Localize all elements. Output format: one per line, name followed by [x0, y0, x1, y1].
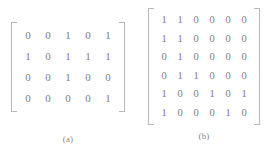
matrix-cell: 0: [38, 67, 58, 88]
matrix-panel-a: 00101101110010000001 (a): [0, 0, 136, 144]
matrix-row: 00100: [18, 67, 118, 88]
matrix-cell: 0: [18, 88, 38, 109]
matrix-cell: 1: [18, 46, 38, 67]
matrix-cell: 0: [236, 30, 252, 49]
matrix-cell: 1: [188, 67, 204, 86]
matrix-cell: 1: [58, 67, 78, 88]
matrix-b-grid: 110000110000010000011000100101100010: [154, 8, 254, 125]
matrix-cell: 0: [204, 104, 220, 123]
matrix-cell: 0: [78, 88, 98, 109]
matrix-cell: 1: [172, 30, 188, 49]
matrix-row: 100010: [156, 104, 252, 123]
matrix-cell: 0: [220, 85, 236, 104]
matrix-cell: 0: [78, 25, 98, 46]
matrix-cell: 0: [78, 67, 98, 88]
matrix-a: 00101101110010000001: [11, 22, 125, 112]
matrix-b-right-bracket: [254, 8, 260, 125]
matrix-cell: 1: [204, 85, 220, 104]
matrix-cell: 0: [204, 30, 220, 49]
matrix-cell: 0: [58, 88, 78, 109]
matrix-cell: 0: [38, 25, 58, 46]
matrix-cell: 1: [172, 48, 188, 67]
matrix-cell: 0: [236, 11, 252, 30]
matrix-cell: 1: [58, 46, 78, 67]
matrix-row: 110000: [156, 30, 252, 49]
matrix-cell: 1: [156, 30, 172, 49]
matrix-a-grid: 00101101110010000001: [17, 22, 119, 112]
matrix-cell: 1: [220, 104, 236, 123]
matrix-cell: 0: [220, 48, 236, 67]
caption-a: (a): [63, 134, 74, 144]
matrix-cell: 0: [172, 85, 188, 104]
matrix-row: 110000: [156, 11, 252, 30]
caption-b: (b): [198, 131, 209, 141]
matrix-row: 100101: [156, 85, 252, 104]
matrix-cell: 0: [204, 11, 220, 30]
matrix-cell: 0: [220, 11, 236, 30]
matrix-cell: 0: [18, 25, 38, 46]
matrix-cell: 1: [78, 46, 98, 67]
matrix-cell: 0: [220, 30, 236, 49]
matrix-cell: 0: [188, 104, 204, 123]
matrix-cell: 0: [188, 48, 204, 67]
matrix-panel-b: 110000110000010000011000100101100010 (b): [136, 0, 272, 141]
matrix-cell: 0: [188, 30, 204, 49]
matrix-cell: 0: [38, 46, 58, 67]
matrix-cell: 1: [236, 85, 252, 104]
matrix-cell: 1: [156, 85, 172, 104]
matrix-cell: 0: [236, 67, 252, 86]
matrix-cell: 1: [58, 25, 78, 46]
matrix-b: 110000110000010000011000100101100010: [148, 8, 260, 125]
matrix-cell: 0: [98, 67, 118, 88]
matrix-cell: 1: [172, 67, 188, 86]
matrix-cell: 0: [204, 67, 220, 86]
matrix-cell: 0: [188, 85, 204, 104]
matrix-cell: 0: [172, 104, 188, 123]
matrix-row: 10111: [18, 46, 118, 67]
matrix-cell: 1: [98, 88, 118, 109]
matrix-cell: 1: [98, 25, 118, 46]
matrix-cell: 0: [38, 88, 58, 109]
matrix-row: 011000: [156, 67, 252, 86]
matrix-cell: 0: [236, 48, 252, 67]
matrix-cell: 1: [156, 104, 172, 123]
matrix-cell: 0: [204, 48, 220, 67]
matrix-cell: 1: [98, 46, 118, 67]
matrix-cell: 0: [220, 67, 236, 86]
matrix-row: 00101: [18, 25, 118, 46]
matrix-cell: 0: [188, 11, 204, 30]
matrix-cell: 0: [156, 67, 172, 86]
matrix-cell: 1: [156, 11, 172, 30]
matrix-cell: 0: [236, 104, 252, 123]
matrix-row: 00001: [18, 88, 118, 109]
figure-container: 00101101110010000001 (a) 110000110000010…: [0, 0, 272, 150]
matrix-a-right-bracket: [119, 22, 125, 112]
matrix-cell: 1: [172, 11, 188, 30]
matrix-cell: 0: [18, 67, 38, 88]
matrix-cell: 0: [156, 48, 172, 67]
matrix-row: 010000: [156, 48, 252, 67]
